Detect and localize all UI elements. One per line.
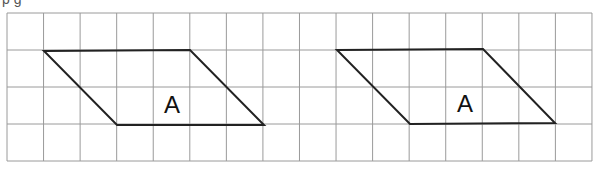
grid-diagram: AA — [0, 0, 597, 173]
shape-label: A — [457, 90, 473, 117]
square-grid — [7, 13, 592, 161]
shape-label: A — [164, 91, 180, 118]
